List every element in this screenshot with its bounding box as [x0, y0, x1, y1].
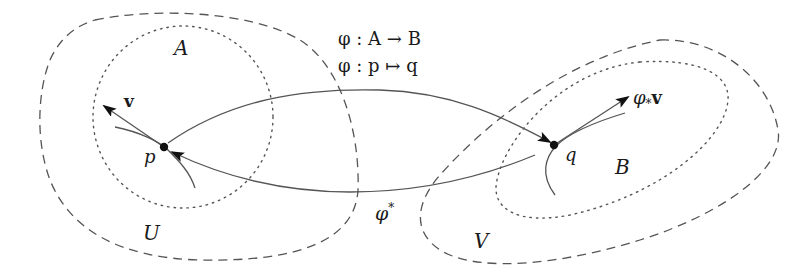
forward-map-arrow [168, 90, 550, 143]
region-b-label: B [614, 155, 630, 179]
vector-pushforward-arrow [554, 97, 628, 145]
vector-v-label: v [123, 91, 135, 111]
point-q-label: q [565, 144, 577, 165]
vector-pushforward-label: φ*v [633, 87, 663, 111]
region-u-label: U [143, 221, 161, 245]
region-a-label: A [172, 36, 188, 60]
pullback-label: φ* [375, 201, 394, 224]
point-q-dot [550, 141, 558, 149]
map-title-line-1: φ : A → B [338, 28, 421, 49]
pullback-map-arrow [172, 152, 535, 192]
region-u-boundary [40, 13, 358, 260]
region-b-boundary [496, 61, 728, 218]
region-v-label: V [474, 229, 491, 253]
map-title-line-2: φ : p ↦ q [338, 55, 418, 76]
point-p-label: p [144, 146, 156, 167]
point-p-dot [160, 143, 168, 151]
vector-v-arrow [104, 106, 164, 147]
diagram-canvas: A U V B p q v φ*v φ : A → B φ : p ↦ q φ* [0, 0, 812, 277]
